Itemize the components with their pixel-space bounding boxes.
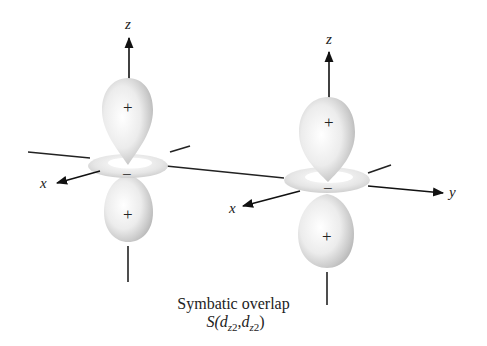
formula-prefix: S( [206, 313, 219, 330]
right-y-label: y [449, 185, 456, 200]
left-z-label: z [125, 17, 131, 32]
right-z-label: z [326, 32, 332, 47]
dz2-overlap-figure: z x + − + z x y + − + Symbatic overlap S… [0, 0, 487, 346]
left-top-plus-sign: + [123, 99, 133, 116]
left-x-axis-arrow [57, 171, 100, 183]
caption-title: Symbatic overlap [0, 296, 477, 312]
left-top-lobe [102, 78, 153, 165]
connecting-axis-line [166, 166, 284, 178]
left-x-label: x [40, 176, 47, 191]
caption-formula: S(dz2,dz2) [0, 314, 479, 333]
left-dz2-orbital [28, 38, 284, 282]
formula-arg1-base: d [220, 313, 228, 330]
right-y-axis-arrow [368, 186, 443, 193]
right-top-plus-sign: + [324, 114, 334, 131]
formula-arg2-base: d [242, 313, 250, 330]
left-bottom-plus-sign: + [123, 206, 133, 223]
right-dz2-orbital [243, 52, 443, 305]
formula-suffix: ) [259, 313, 264, 330]
right-bottom-plus-sign: + [322, 228, 332, 245]
right-ring-minus-sign: − [323, 180, 333, 197]
right-axis-tick [368, 165, 391, 173]
left-axis-tick [170, 146, 190, 152]
left-ring-minus-sign: − [122, 166, 132, 183]
left-axis-back-line [28, 152, 90, 158]
right-x-label: x [229, 201, 236, 216]
right-x-axis-arrow [243, 191, 300, 206]
